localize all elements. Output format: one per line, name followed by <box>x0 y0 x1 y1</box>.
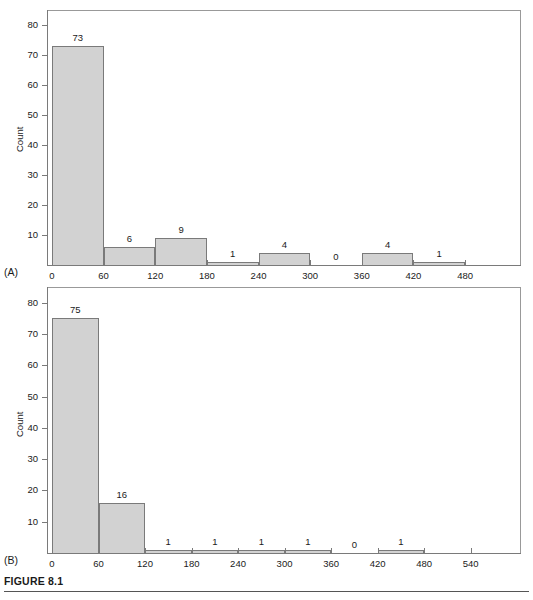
x-tick-label-1-3: 180 <box>172 559 212 569</box>
x-tick-label-1-6: 360 <box>311 559 351 569</box>
y-tick-1-1 <box>42 490 47 491</box>
x-tick-label-1-8: 480 <box>404 559 444 569</box>
bar-value-label-1-6: 0 <box>334 540 374 550</box>
bar-1-2 <box>145 550 192 554</box>
x-tick-1-8 <box>424 548 425 553</box>
y-tick-1-3 <box>42 428 47 429</box>
bars-layer-b: 1020304050607080060120180240300360420480… <box>0 0 533 575</box>
y-tick-1-7 <box>42 303 47 304</box>
y-tick-label-1-4: 50 <box>7 392 38 402</box>
panel-label-b: (B) <box>4 555 18 566</box>
y-tick-label-1-0: 10 <box>7 517 38 527</box>
bar-value-label-1-0: 75 <box>55 305 95 315</box>
figure-8-1: 1020304050607080060120180240300360420480… <box>0 0 533 600</box>
bar-1-0 <box>52 318 99 554</box>
x-tick-label-1-7: 420 <box>358 559 398 569</box>
bar-value-label-1-3: 1 <box>195 537 235 547</box>
bar-value-label-1-7: 1 <box>381 537 421 547</box>
x-tick-label-1-4: 240 <box>218 559 258 569</box>
y-tick-label-1-1: 20 <box>7 485 38 495</box>
bar-1-5 <box>285 550 332 554</box>
bar-value-label-1-4: 1 <box>241 537 281 547</box>
x-tick-label-1-9: 540 <box>451 559 491 569</box>
bar-value-label-1-5: 1 <box>288 537 328 547</box>
bar-1-4 <box>238 550 285 554</box>
y-tick-1-2 <box>42 459 47 460</box>
panel-b: 1020304050607080060120180240300360420480… <box>0 0 533 575</box>
y-tick-label-1-6: 70 <box>7 329 38 339</box>
figure-caption: FIGURE 8.1 <box>4 575 63 587</box>
y-tick-1-4 <box>42 397 47 398</box>
y-axis-title-b: Count <box>14 412 25 437</box>
x-tick-label-1-1: 60 <box>79 559 119 569</box>
y-axis-line-1 <box>47 287 48 553</box>
caption-divider <box>4 591 529 592</box>
x-tick-1-9 <box>471 548 472 553</box>
x-tick-1-6 <box>331 548 332 553</box>
y-tick-label-1-5: 60 <box>7 360 38 370</box>
y-tick-label-1-2: 30 <box>7 454 38 464</box>
y-tick-1-0 <box>42 522 47 523</box>
x-tick-label-1-0: 0 <box>32 559 72 569</box>
y-tick-label-1-7: 80 <box>7 298 38 308</box>
bar-value-label-1-2: 1 <box>148 537 188 547</box>
bar-1-7 <box>378 550 425 554</box>
bar-value-label-1-1: 16 <box>102 490 142 500</box>
x-tick-label-1-2: 120 <box>125 559 165 569</box>
x-tick-label-1-5: 300 <box>265 559 305 569</box>
bar-1-3 <box>192 550 239 554</box>
y-tick-1-5 <box>42 365 47 366</box>
y-tick-1-6 <box>42 334 47 335</box>
bar-1-1 <box>99 503 146 554</box>
